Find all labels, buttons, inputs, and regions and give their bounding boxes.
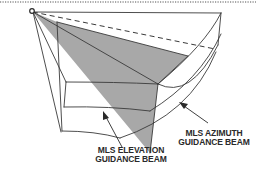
azimuth-pointer-arrow — [179, 102, 208, 123]
elevation-pointer-arrow — [103, 111, 122, 147]
elevation-label-line2: GUIDANCE BEAM — [93, 155, 169, 164]
inner-front-arc-bottom — [62, 131, 120, 138]
elevation-beam-label: MLS ELEVATION GUIDANCE BEAM — [93, 146, 169, 163]
left-vertical-edge-2 — [64, 82, 66, 107]
origin-point — [30, 9, 35, 14]
azimuth-beam-label: MLS AZIMUTH GUIDANCE BEAM — [174, 129, 254, 146]
azimuth-label-line2: GUIDANCE BEAM — [174, 138, 254, 147]
top-edge — [33, 12, 221, 13]
